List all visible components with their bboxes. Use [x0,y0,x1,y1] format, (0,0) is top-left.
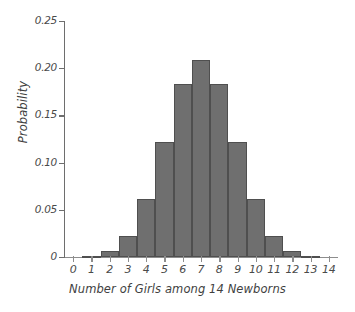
y-tick-mark [59,257,65,258]
y-tick-label: 0.05 [17,203,57,215]
y-tick-label: 0 [17,250,57,262]
x-tick-mark [128,256,129,262]
x-tick-mark [91,256,92,262]
y-tick-mark [59,163,65,164]
x-axis-title: Number of Girls among 14 Newborns [0,282,355,296]
x-tick-mark [329,256,330,262]
probability-histogram-chart: 00.050.100.150.200.25 012345678910111213… [0,0,355,312]
y-tick-mark [59,21,65,22]
y-tick-label: 0.10 [17,156,57,168]
bar-4 [137,199,155,257]
bar-7 [192,60,210,257]
bar-8 [210,84,228,257]
bar-9 [228,142,246,257]
x-tick-mark [256,256,257,262]
bar-5 [155,142,173,257]
x-tick-mark [73,256,74,262]
bar-11 [265,236,283,257]
x-tick-mark [292,256,293,262]
x-tick-mark [311,256,312,262]
x-tick-mark [219,256,220,262]
x-tick-mark [274,256,275,262]
bar-3 [119,236,137,257]
y-axis-line [64,21,65,258]
x-tick-mark [146,256,147,262]
bar-10 [247,199,265,257]
y-axis-title: Probability [16,67,30,157]
x-tick-label: 14 [318,263,340,276]
x-tick-mark [183,256,184,262]
x-tick-mark [110,256,111,262]
bar-6 [174,84,192,257]
x-tick-mark [164,256,165,262]
y-tick-mark [59,210,65,211]
x-tick-mark [201,256,202,262]
x-tick-mark [238,256,239,262]
y-tick-label: 0.25 [17,14,57,26]
y-tick-mark [59,68,65,69]
y-tick-mark [59,115,65,116]
